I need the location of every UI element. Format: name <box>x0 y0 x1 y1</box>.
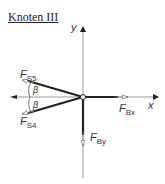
label-fs4: FS4 <box>20 115 37 130</box>
angle-arc-upper <box>29 82 31 97</box>
node <box>81 95 86 100</box>
label-fby: FBy <box>90 131 106 146</box>
free-body-diagram: y x FS5 FS4 FBx FBy β β <box>0 0 165 184</box>
label-fs5: FS5 <box>20 68 37 83</box>
label-fbx: FBx <box>119 102 135 117</box>
y-axis-label: y <box>70 21 78 33</box>
x-axis-label: x <box>147 99 154 111</box>
angle-arc-lower <box>29 97 31 112</box>
angle-label-lower: β <box>32 100 38 110</box>
angle-label-upper: β <box>32 85 38 95</box>
